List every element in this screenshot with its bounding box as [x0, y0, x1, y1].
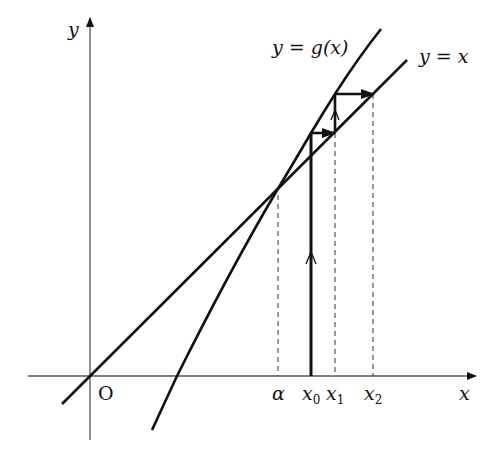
x-axis-label: x: [459, 384, 470, 403]
identity-line-label: y = x: [419, 47, 468, 66]
y-axis-label: y: [68, 20, 79, 39]
origin-label: O: [98, 384, 114, 403]
cobweb-diagram: y x O y = g(x) y = x α x0 x1 x2: [0, 0, 490, 460]
identity-line: [62, 60, 407, 404]
x0-tick-label: x0: [302, 384, 320, 406]
alpha-tick-label: α: [272, 384, 285, 403]
g-curve-label: y = g(x): [272, 38, 348, 57]
diagram-canvas: [0, 0, 490, 460]
x2-tick-label: x2: [364, 384, 382, 406]
g-curve: [152, 29, 381, 430]
x1-tick-label: x1: [326, 384, 344, 406]
